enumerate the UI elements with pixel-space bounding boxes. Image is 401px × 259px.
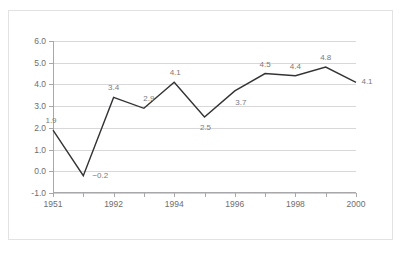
- x-tick-label: 1951: [44, 199, 63, 209]
- cropped-title-strip: [0, 0, 401, 9]
- series-polyline: [53, 67, 356, 176]
- y-tick-label: 4.0: [34, 79, 46, 89]
- plot-area: 6.05.04.03.02.01.00.0-1.0 19511992199419…: [53, 41, 356, 193]
- y-tick-label: -1.0: [31, 188, 46, 198]
- x-tick-label: 1998: [286, 199, 305, 209]
- data-point-label: 4.5: [260, 59, 271, 68]
- data-point-label: 1.9: [45, 116, 56, 125]
- x-tick-mark: [83, 193, 84, 197]
- data-point-label: 4.1: [170, 68, 181, 77]
- x-tick-label: 1992: [104, 199, 123, 209]
- x-tick-label: 1996: [225, 199, 244, 209]
- y-tick-label: 1.0: [34, 145, 46, 155]
- x-tick-mark: [144, 193, 145, 197]
- data-point-label: 2.9: [143, 94, 154, 103]
- data-point-label: 4.4: [290, 61, 301, 70]
- data-point-label: 4.8: [320, 53, 331, 62]
- data-point-label: 4.1: [361, 77, 372, 86]
- x-tick-mark: [295, 193, 296, 197]
- x-tick-mark: [174, 193, 175, 197]
- data-point-label: 3.4: [108, 83, 119, 92]
- x-tick-label: 2000: [347, 199, 366, 209]
- chart-frame: 6.05.04.03.02.01.00.0-1.0 19511992199419…: [8, 10, 393, 240]
- x-tick-mark: [53, 193, 54, 197]
- x-tick-mark: [356, 193, 357, 197]
- x-tick-mark: [235, 193, 236, 197]
- x-tick-mark: [326, 193, 327, 197]
- y-tick-label: 2.0: [34, 123, 46, 133]
- x-tick-mark: [205, 193, 206, 197]
- data-point-label: −0.2: [92, 170, 108, 179]
- x-tick-mark: [114, 193, 115, 197]
- x-tick-mark: [265, 193, 266, 197]
- y-tick-label: 0.0: [34, 166, 46, 176]
- y-tick-label: 5.0: [34, 58, 46, 68]
- x-tick-label: 1994: [165, 199, 184, 209]
- data-point-label: 3.7: [235, 97, 246, 106]
- y-tick-label: 3.0: [34, 101, 46, 111]
- data-point-label: 2.5: [200, 123, 211, 132]
- y-tick-label: 6.0: [34, 36, 46, 46]
